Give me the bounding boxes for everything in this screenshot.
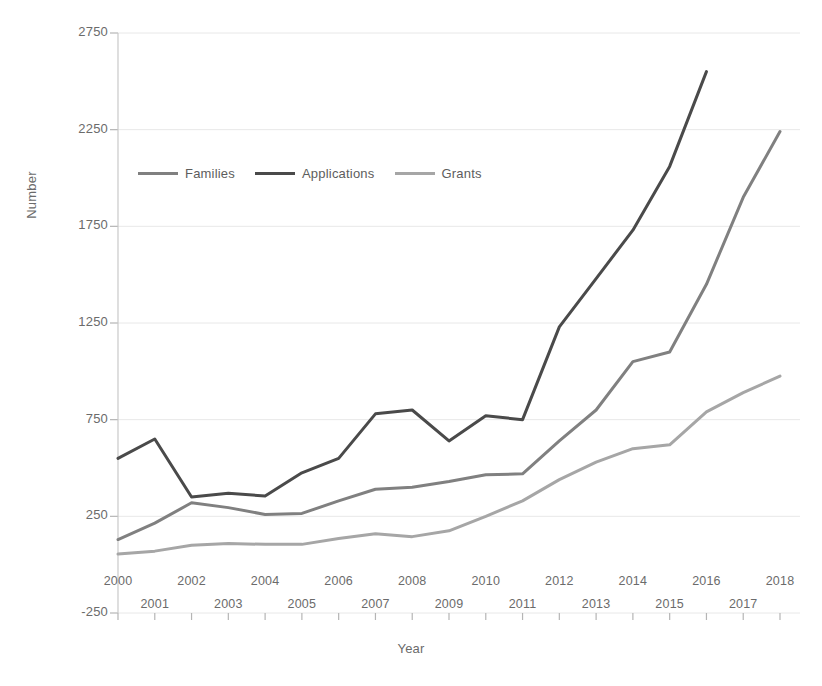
x-tick-label: 2017 [713, 597, 773, 611]
x-tick-label: 2010 [456, 574, 516, 588]
x-tick-label: 2005 [272, 597, 332, 611]
legend-label: Applications [302, 166, 375, 181]
x-tick-label: 2004 [235, 574, 295, 588]
y-tick-label: 1250 [38, 314, 108, 329]
x-tick-label: 2016 [676, 574, 736, 588]
legend-item-grants[interactable]: Grants [395, 166, 482, 181]
legend-swatch-line-icon [255, 172, 295, 175]
x-tick-label: 2013 [566, 597, 626, 611]
chart-legend: FamiliesApplicationsGrants [138, 166, 482, 181]
x-tick-label: 2000 [88, 574, 148, 588]
x-tick-label: 2011 [493, 597, 553, 611]
x-tick-label: 2014 [603, 574, 663, 588]
legend-item-applications[interactable]: Applications [255, 166, 375, 181]
x-tick-label: 2009 [419, 597, 479, 611]
y-tick-label: 2750 [38, 24, 108, 39]
x-axis-title: Year [0, 641, 822, 656]
y-tick-label: 1750 [38, 217, 108, 232]
x-tick-label: 2002 [162, 574, 222, 588]
legend-swatch-line-icon [138, 172, 178, 175]
series-lines [118, 72, 780, 554]
line-chart: -2502507501250175022502750 2000200120022… [0, 0, 822, 686]
legend-label: Families [185, 166, 235, 181]
x-tick-label: 2007 [345, 597, 405, 611]
x-tick-label: 2018 [750, 574, 810, 588]
series-line-applications [118, 72, 706, 497]
y-axis-title: Number [24, 135, 39, 255]
x-tick-label: 2015 [640, 597, 700, 611]
legend-swatch-line-icon [395, 172, 435, 175]
y-tick-label: 250 [38, 507, 108, 522]
x-tick-label: 2006 [309, 574, 369, 588]
series-line-families [118, 132, 780, 540]
x-tick-label: 2001 [125, 597, 185, 611]
series-line-grants [118, 376, 780, 554]
legend-item-families[interactable]: Families [138, 166, 235, 181]
x-tick-label: 2003 [198, 597, 258, 611]
x-tick-label: 2012 [529, 574, 589, 588]
legend-label: Grants [442, 166, 482, 181]
y-tick-label: 750 [38, 411, 108, 426]
y-tick-label: -250 [38, 604, 108, 619]
y-tick-label: 2250 [38, 121, 108, 136]
x-tick-label: 2008 [382, 574, 442, 588]
